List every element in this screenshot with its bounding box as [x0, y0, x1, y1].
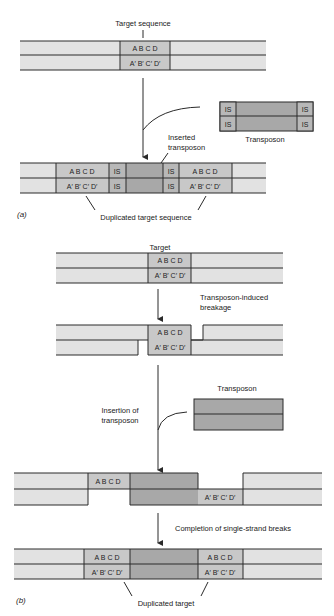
top-strand-sequence: A B C D	[95, 554, 120, 561]
top-strand-sequence: A B C D	[158, 329, 183, 336]
is-label: IS	[225, 106, 232, 113]
top-strand-sequence: A B C D	[193, 168, 218, 175]
breakage-label-line1: Transposon-induced	[200, 293, 268, 302]
bottom-strand-sequence: A′ B′ C′ D′	[155, 272, 186, 279]
transposition-diagram: Target sequence A B C D A′ B′ C′ D′ IS I…	[0, 0, 334, 616]
duplicated-sequence-label: Duplicated target sequence	[100, 213, 191, 222]
inserted-label-line2: transposon	[168, 143, 205, 152]
breakage-label-line2: breakage	[200, 303, 231, 312]
target-sequence-label: Target sequence	[115, 19, 170, 28]
insertion-curve	[158, 412, 187, 430]
transposon-label: Transposon	[245, 135, 284, 144]
insertion-label-line2: transposon	[101, 416, 138, 425]
is-label: IS	[114, 168, 121, 175]
is-label: IS	[225, 121, 232, 128]
top-strand-sequence: A B C D	[133, 45, 158, 52]
bottom-strand-sequence: A′ B′ C′ D′	[205, 494, 236, 501]
label-pointer	[124, 582, 132, 596]
label-pointer	[201, 582, 208, 596]
panel-a: Target sequence A B C D A′ B′ C′ D′ IS I…	[17, 19, 313, 222]
label-pointer	[198, 196, 206, 210]
transposon-b: Transposon	[194, 384, 283, 430]
is-label: IS	[168, 183, 175, 190]
broken-dna: A B C D A′ B′ C′ D′	[56, 325, 283, 355]
top-strand-sequence: A B C D	[208, 554, 233, 561]
result-dna-a: A B C D A′ B′ C′ D′ IS IS IS IS A B C D …	[20, 163, 266, 193]
top-strand-sequence: A B C D	[70, 168, 95, 175]
transposon-a: IS IS IS IS Transposon	[220, 102, 313, 144]
label-pointer	[86, 196, 95, 210]
final-dna: A B C D A′ B′ C′ D′ A B C D A′ B′ C′ D′	[14, 549, 322, 579]
bottom-strand-sequence: A′ B′ C′ D′	[155, 344, 186, 351]
bottom-strand-sequence: A′ B′ C′ D′	[92, 569, 123, 576]
insertion-intermediate: A B C D A′ B′ C′ D′	[14, 473, 322, 505]
top-strand-sequence: A B C D	[96, 478, 121, 485]
panel-label-a: (a)	[17, 210, 27, 219]
panel-label-b: (b)	[16, 596, 26, 605]
duplicated-target-label: Duplicated target	[138, 599, 196, 608]
completion-label: Completion of single-strand breaks	[175, 524, 291, 533]
is-label: IS	[302, 121, 309, 128]
bottom-strand-sequence: A′ B′ C′ D′	[67, 183, 98, 190]
is-label: IS	[114, 183, 121, 190]
panel-b: Target A B C D A′ B′ C′ D′ Transposon-in…	[14, 243, 322, 608]
label-pointer	[161, 153, 168, 163]
bottom-strand-sequence: A′ B′ C′ D′	[205, 569, 236, 576]
insertion-curve	[143, 107, 200, 130]
transposon-label: Transposon	[217, 384, 256, 393]
is-label: IS	[168, 168, 175, 175]
target-label: Target	[150, 243, 172, 252]
bottom-strand-sequence: A′ B′ C′ D′	[190, 183, 221, 190]
is-label: IS	[302, 106, 309, 113]
insertion-label-line1: Insertion of	[101, 406, 139, 415]
bottom-strand-sequence: A′ B′ C′ D′	[130, 60, 161, 67]
target-dna-b: A B C D A′ B′ C′ D′	[56, 253, 283, 283]
target-dna-a: A B C D A′ B′ C′ D′	[20, 41, 266, 70]
top-strand-sequence: A B C D	[158, 257, 183, 264]
inserted-label-line1: Inserted	[168, 133, 195, 142]
